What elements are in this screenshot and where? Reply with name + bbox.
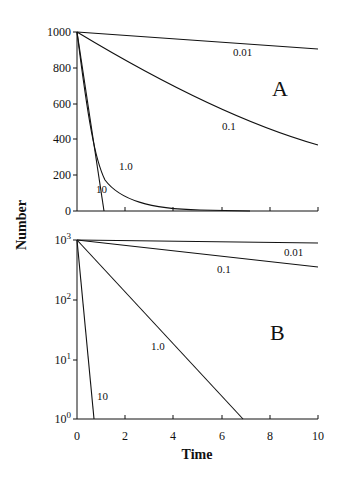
panel-b-yticklabels: 103 102 101 100	[55, 231, 72, 426]
svg-text:1000: 1000	[47, 25, 71, 39]
svg-text:102: 102	[55, 291, 72, 307]
svg-text:0.1: 0.1	[222, 120, 236, 132]
panel-a-series	[77, 32, 318, 211]
panel-a-label: A	[272, 76, 288, 101]
svg-text:1.0: 1.0	[119, 160, 133, 172]
svg-text:1.0: 1.0	[151, 340, 165, 352]
panel-a-curve-labels: 0.01 0.1 1.0 10	[96, 46, 252, 195]
svg-text:200: 200	[53, 168, 71, 182]
svg-text:10: 10	[96, 183, 108, 195]
svg-text:6: 6	[219, 429, 225, 443]
svg-text:0: 0	[74, 429, 80, 443]
svg-text:100: 100	[55, 410, 72, 426]
svg-text:800: 800	[53, 61, 71, 75]
svg-text:10: 10	[312, 429, 324, 443]
svg-text:600: 600	[53, 97, 71, 111]
svg-text:400: 400	[53, 132, 71, 146]
panel-b-label: B	[270, 320, 285, 345]
svg-text:0: 0	[65, 204, 71, 218]
x-ticklabels: 0 2 4 6 8 10	[74, 429, 324, 443]
svg-text:103: 103	[55, 231, 72, 247]
x-axis-title: Time	[182, 447, 213, 462]
svg-text:10: 10	[97, 390, 109, 402]
svg-text:0.1: 0.1	[217, 263, 231, 275]
svg-text:8: 8	[267, 429, 273, 443]
svg-text:0.01: 0.01	[284, 246, 303, 258]
svg-text:2: 2	[122, 429, 128, 443]
panel-a-yticklabels: 1000 800 600 400 200 0	[47, 25, 71, 218]
decay-chart: 1000 800 600 400 200 0 0.01 0.1 1.0 10 A…	[0, 0, 340, 482]
y-axis-title: Number	[14, 200, 29, 250]
svg-text:4: 4	[170, 429, 176, 443]
panel-a-axes	[73, 32, 318, 211]
svg-text:101: 101	[55, 351, 72, 367]
svg-text:0.01: 0.01	[233, 46, 252, 58]
